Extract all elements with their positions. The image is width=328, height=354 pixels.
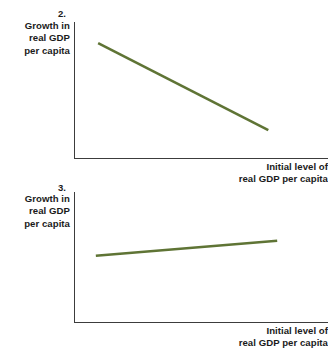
chart-panel-2: 2. Growth in real GDP per capita Initial… <box>0 0 328 177</box>
trend-line <box>96 241 277 256</box>
x-axis-title: Initial level of real GDP per capita <box>178 325 328 350</box>
chart-panel-3: 3. Growth in real GDP per capita Initial… <box>0 177 328 354</box>
economic-growth-figure: 2. Growth in real GDP per capita Initial… <box>0 0 328 354</box>
plot-area <box>0 0 328 177</box>
x-axis-title-line-1: Initial level of <box>178 325 328 337</box>
x-axis-title-line-2: real GDP per capita <box>178 337 328 349</box>
x-axis-title-line-1: Initial level of <box>178 161 328 173</box>
trend-line <box>98 43 268 130</box>
